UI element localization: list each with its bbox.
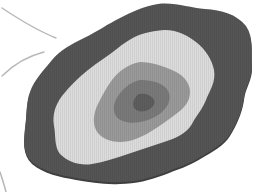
layered-blob-illustration bbox=[0, 0, 259, 192]
